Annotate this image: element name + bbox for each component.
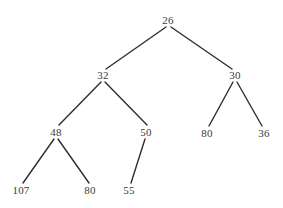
tree-edge	[131, 139, 145, 183]
tree-node-48: 48	[50, 127, 61, 138]
tree-edge	[58, 139, 89, 183]
tree-node-107: 107	[12, 185, 29, 196]
tree-node-55: 55	[123, 185, 134, 196]
tree-node-26: 26	[162, 15, 173, 26]
tree-node-30: 30	[229, 70, 240, 81]
tree-edges-layer	[0, 0, 283, 208]
tree-edge	[209, 82, 233, 126]
tree-edge	[237, 82, 262, 126]
tree-edge	[23, 139, 54, 183]
tree-edge	[105, 82, 147, 125]
tree-node-80: 80	[201, 128, 212, 139]
tree-node-32: 32	[97, 70, 108, 81]
tree-edge	[59, 82, 101, 125]
tree-edge	[106, 27, 166, 69]
binary-tree-diagram: 263230485080361078055	[0, 0, 283, 208]
tree-node-80: 80	[84, 185, 95, 196]
tree-node-36: 36	[258, 128, 269, 139]
tree-node-50: 50	[140, 127, 151, 138]
tree-edge	[171, 27, 232, 69]
